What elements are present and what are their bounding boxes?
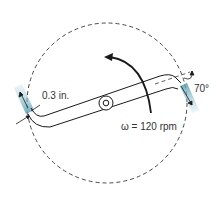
- left-water-jet: [14, 84, 34, 114]
- pivot-outer: [99, 96, 113, 110]
- thickness-label: 0.3 in.: [42, 90, 69, 101]
- angle-label: 70°: [194, 83, 209, 94]
- angular-velocity-label: ω = 120 rpm: [121, 121, 177, 132]
- sprinkler-diagram: 0.3 in. 70° ω = 120 rpm: [0, 0, 221, 218]
- rotation-arrow-head: [104, 53, 113, 61]
- rotation-arrow: [110, 57, 151, 113]
- thickness-dimension: [16, 92, 40, 124]
